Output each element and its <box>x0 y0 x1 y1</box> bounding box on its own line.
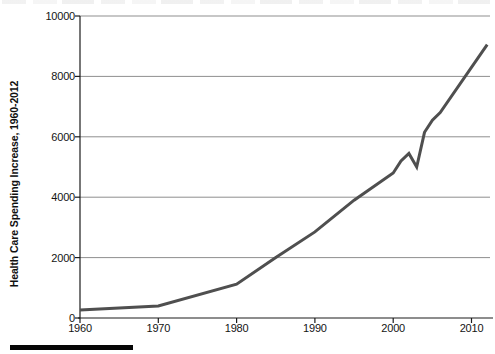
y-tick-label: 8000 <box>28 69 75 83</box>
y-tick-label: 6000 <box>28 130 75 144</box>
axes <box>78 16 493 318</box>
x-tick-label: 1990 <box>303 322 327 335</box>
x-tick-label: 2010 <box>460 322 484 335</box>
x-tick-label: 2000 <box>381 322 405 335</box>
x-tick-label: 1970 <box>146 322 170 335</box>
x-tick-label: 1960 <box>68 322 92 335</box>
bottom-black-bar <box>10 345 133 350</box>
x-tick-label: 1980 <box>225 322 249 335</box>
tick-marks <box>75 16 472 323</box>
horizontal-gridlines <box>80 16 490 258</box>
line-chart <box>0 0 495 354</box>
y-tick-label: 10000 <box>28 9 75 23</box>
spending-line <box>80 45 487 310</box>
y-tick-label: 4000 <box>28 190 75 204</box>
chart-figure: Health Care Spending Increase, 1960-2012… <box>0 0 495 354</box>
y-tick-label: 2000 <box>28 251 75 265</box>
